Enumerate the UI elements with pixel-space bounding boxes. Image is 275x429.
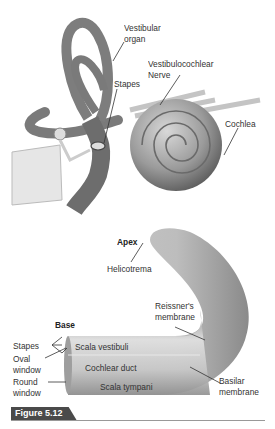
label-cochlea: Cochlea xyxy=(225,118,256,129)
label-helicotrema: Helicotrema xyxy=(107,263,152,274)
label-cochlear-duct: Cochlear duct xyxy=(85,362,137,373)
inner-ear-drawing xyxy=(12,23,260,210)
label-vestibulocochlear-nerve: Vestibulocochlear Nerve xyxy=(148,58,214,80)
label-apex: Apex xyxy=(117,236,137,247)
figure-label: Figure 5.12 xyxy=(11,407,77,420)
label-oval-window: Oval window xyxy=(13,353,41,375)
inner-ear-illustration xyxy=(0,0,275,429)
label-basilar-membrane: Basilar membrane xyxy=(219,375,259,397)
label-scala-vestibuli: Scala vestibuli xyxy=(75,341,128,352)
label-scala-tympani: Scala tympani xyxy=(100,381,153,392)
label-base: Base xyxy=(55,319,75,330)
label-vestibular-organ: Vestibular organ xyxy=(124,22,161,44)
label-reissners-membrane: Reissner's membrane xyxy=(155,300,195,322)
label-stapes-top: Stapes xyxy=(114,78,140,89)
label-stapes-bottom: Stapes xyxy=(13,340,39,351)
figure-rule xyxy=(11,420,265,421)
label-round-window: Round window xyxy=(13,376,41,398)
